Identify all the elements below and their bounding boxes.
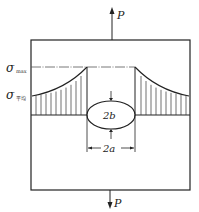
hole-height-label: 2b — [102, 110, 116, 121]
sigma-avg-subscript: 平均 — [16, 95, 26, 102]
hole-width-label: 2a — [102, 143, 115, 154]
left-stress-curve — [32, 67, 87, 96]
sigma-max-subscript: max — [16, 68, 27, 74]
sigma-avg-symbol: σ — [6, 88, 15, 102]
right-stress-hatching — [141, 76, 186, 115]
sigma-max-symbol: σ — [6, 61, 15, 75]
right-stress-curve — [135, 67, 189, 96]
stress-concentration-diagram: P P — [0, 0, 199, 212]
diagram-svg: P P — [0, 0, 199, 212]
top-load-label: P — [116, 9, 125, 22]
bottom-load-label: P — [113, 197, 122, 210]
top-load-arrow — [110, 7, 115, 40]
bottom-load-arrow — [108, 190, 113, 209]
left-stress-hatching — [36, 76, 81, 115]
